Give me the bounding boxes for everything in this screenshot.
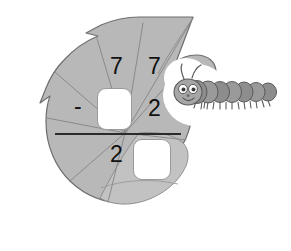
worksheet-canvas: 7 7 - 2 2 bbox=[0, 0, 291, 251]
leg bbox=[262, 100, 264, 107]
digit-minuend-ones: 7 bbox=[148, 55, 161, 78]
leg bbox=[256, 101, 257, 108]
digit-minuend-tens: 7 bbox=[110, 55, 123, 78]
pupil-right bbox=[192, 88, 196, 92]
pupil-left bbox=[182, 88, 186, 92]
caterpillar-nose bbox=[187, 94, 190, 97]
answer-box-bottom[interactable] bbox=[133, 139, 171, 180]
answer-box-top[interactable] bbox=[97, 88, 132, 130]
leg bbox=[244, 102, 245, 109]
leg bbox=[250, 101, 251, 108]
leaf-and-caterpillar-illustration bbox=[0, 0, 291, 251]
digit-difference-tens: 2 bbox=[110, 143, 123, 166]
digit-subtrahend-ones: 2 bbox=[148, 97, 161, 120]
subtraction-rule-line bbox=[55, 133, 181, 135]
leg bbox=[238, 102, 239, 109]
operator-minus: - bbox=[74, 95, 82, 118]
